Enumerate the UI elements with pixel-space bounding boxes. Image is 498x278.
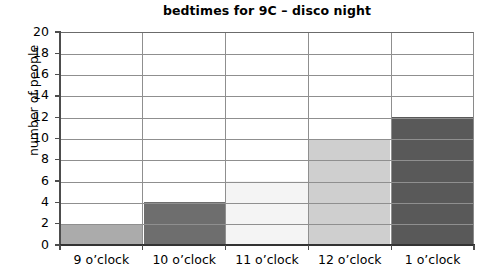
gridline-horizontal bbox=[60, 118, 473, 119]
y-tick-mark bbox=[55, 159, 60, 160]
x-tick-mark bbox=[308, 245, 309, 250]
bar bbox=[309, 139, 390, 246]
gridline-horizontal bbox=[60, 160, 473, 161]
y-tick-label: 2 bbox=[9, 217, 49, 229]
x-tick-mark bbox=[225, 245, 226, 250]
gridline-vertical bbox=[142, 33, 143, 245]
plot-area bbox=[60, 32, 474, 245]
x-tick-mark bbox=[391, 245, 392, 250]
y-tick-label: 4 bbox=[9, 196, 49, 208]
gridline-horizontal bbox=[60, 54, 473, 55]
gridline-horizontal bbox=[60, 139, 473, 140]
y-tick-label: 18 bbox=[9, 47, 49, 59]
x-tick-label: 9 o’clock bbox=[60, 252, 143, 267]
y-tick-mark bbox=[55, 202, 60, 203]
y-tick-mark bbox=[55, 74, 60, 75]
y-tick-label: 16 bbox=[9, 68, 49, 80]
x-tick-mark bbox=[473, 245, 474, 250]
chart-title: bedtimes for 9C – disco night bbox=[60, 3, 474, 18]
gridline-horizontal bbox=[60, 203, 473, 204]
y-tick-label: 10 bbox=[9, 132, 49, 144]
gridline-vertical bbox=[391, 33, 392, 245]
bar bbox=[61, 224, 142, 245]
y-tick-mark bbox=[55, 95, 60, 96]
gridline-horizontal bbox=[60, 224, 473, 225]
gridline-horizontal bbox=[60, 75, 473, 76]
x-axis-line bbox=[59, 244, 475, 246]
y-tick-mark bbox=[55, 117, 60, 118]
x-tick-label: 11 o’clock bbox=[226, 252, 309, 267]
gridline-horizontal bbox=[60, 182, 473, 183]
gridline-horizontal bbox=[60, 96, 473, 97]
gridline-vertical bbox=[225, 33, 226, 245]
x-tick-label: 12 o’clock bbox=[308, 252, 391, 267]
bar bbox=[226, 181, 307, 245]
y-tick-label: 12 bbox=[9, 111, 49, 123]
gridline-vertical bbox=[308, 33, 309, 245]
y-tick-label: 0 bbox=[9, 239, 49, 251]
y-tick-label: 14 bbox=[9, 89, 49, 101]
y-tick-label: 8 bbox=[9, 153, 49, 165]
y-tick-mark bbox=[55, 223, 60, 224]
x-tick-label: 1 o’clock bbox=[391, 252, 474, 267]
bar-chart: bedtimes for 9C – disco night number of … bbox=[0, 0, 498, 278]
x-tick-label: 10 o’clock bbox=[143, 252, 226, 267]
y-tick-label: 20 bbox=[9, 26, 49, 38]
y-tick-mark bbox=[55, 138, 60, 139]
y-tick-label: 6 bbox=[9, 175, 49, 187]
y-tick-mark bbox=[55, 180, 60, 181]
y-tick-mark bbox=[55, 31, 60, 32]
x-tick-mark bbox=[142, 245, 143, 250]
x-tick-mark bbox=[59, 245, 60, 250]
y-tick-mark bbox=[55, 53, 60, 54]
